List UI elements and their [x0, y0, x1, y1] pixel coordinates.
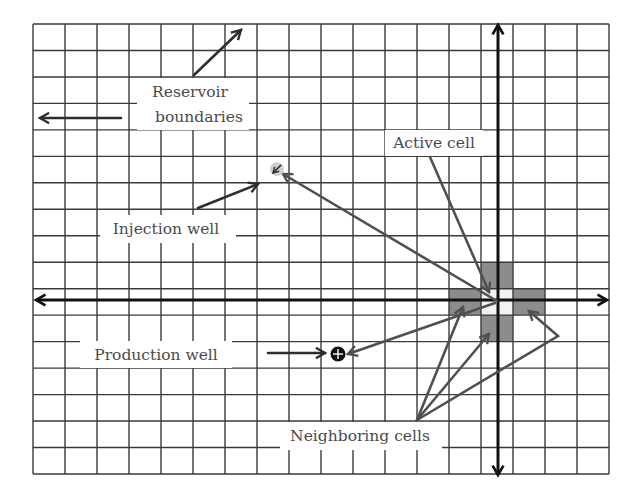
label-active-cell: Active cell: [385, 130, 483, 156]
label-text: Neighboring cells: [290, 427, 430, 445]
label-text: boundaries: [155, 108, 243, 126]
neighbor-cell-west: [449, 289, 481, 315]
reservoir-grid: [33, 24, 609, 474]
label-text: Production well: [94, 346, 218, 364]
label-injection-well: Injection well: [100, 215, 236, 243]
boundary-arrow-northeast: [194, 30, 241, 75]
neighbor-pointer-west: [417, 307, 463, 420]
production-well-icon: [331, 347, 346, 362]
active-cell-pointer: [430, 157, 489, 292]
flow-to-production-well: [348, 303, 495, 354]
label-reservoir-boundaries: Reservoirboundaries: [137, 78, 249, 130]
neighbor-pointer-south: [417, 334, 489, 420]
label-text: Injection well: [113, 220, 220, 238]
label-production-well: Production well: [80, 341, 232, 368]
label-text: Active cell: [392, 134, 475, 152]
injection-well-pointer: [198, 184, 258, 208]
label-text: Reservoir: [152, 83, 228, 101]
injection-well-icon: [270, 162, 284, 176]
reservoir-grid-diagram: ReservoirboundariesActive cellInjection …: [0, 0, 638, 495]
label-neighboring-cells: Neighboring cells: [280, 422, 442, 450]
